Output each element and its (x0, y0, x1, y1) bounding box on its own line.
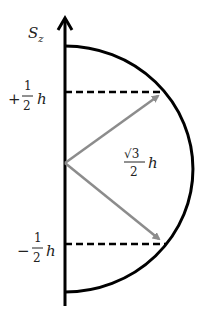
vector-num: √3 (124, 147, 139, 161)
spin-diagram: Sz + 1 2 h √3 2 h − 1 2 h (0, 0, 205, 322)
spin-down-vector (65, 163, 159, 239)
upper-den: 2 (23, 99, 31, 113)
upper-num: 1 (24, 79, 32, 93)
spin-up-vector (65, 96, 158, 163)
semicircle-arc (65, 46, 193, 292)
axis-label: Sz (28, 24, 44, 44)
vector-unit: h (148, 154, 158, 172)
lower-num: 1 (34, 231, 42, 245)
lower-unit: h (46, 242, 56, 260)
lower-sign: − (17, 242, 30, 260)
lower-den: 2 (33, 251, 41, 265)
upper-unit: h (37, 90, 47, 108)
vector-den: 2 (130, 165, 138, 179)
upper-sign: + (8, 90, 21, 108)
